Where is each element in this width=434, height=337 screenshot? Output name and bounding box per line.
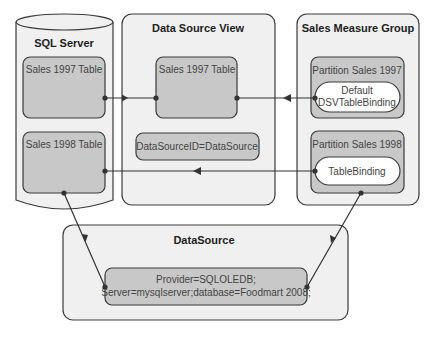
sql-server-container: SQL Server Sales 1997 Table Sales 1998 T… <box>16 14 113 209</box>
partition-1998-label: Partition Sales 1998 <box>312 139 402 150</box>
datasource-container: DataSource Provider=SQLOLEDB; Server=mys… <box>63 225 348 320</box>
measure-group-title: Sales Measure Group <box>302 22 415 34</box>
diagram-canvas: SQL Server Sales 1997 Table Sales 1998 T… <box>0 0 434 337</box>
data-source-view-container: Data Source View Sales 1997 Table DataSo… <box>122 14 275 205</box>
arrow-icon <box>283 94 291 102</box>
datasource-id-label: DataSourceID=DataSource <box>136 141 258 152</box>
sql-sales-1997-label: Sales 1997 Table <box>26 64 103 75</box>
binding-1998-label: TableBinding <box>328 166 385 177</box>
binding-1997-line1: Default <box>341 85 373 96</box>
connection-line1: Provider=SQLOLEDB; <box>156 274 256 285</box>
datasource-title: DataSource <box>173 234 234 246</box>
connection-line2: Server=mysqlserver;database=Foodmart 200… <box>101 287 311 298</box>
sql-server-title: SQL Server <box>34 37 94 49</box>
partition-1997-label: Partition Sales 1997 <box>312 65 402 76</box>
dsv-title: Data Source View <box>152 22 245 34</box>
binding-1997-line2: DSVTableBinding <box>318 97 396 108</box>
sql-sales-1998-label: Sales 1998 Table <box>26 139 103 150</box>
dsv-sales-1997-label: Sales 1997 Table <box>159 64 236 75</box>
sales-measure-group-container: Sales Measure Group Partition Sales 1997… <box>297 14 419 205</box>
